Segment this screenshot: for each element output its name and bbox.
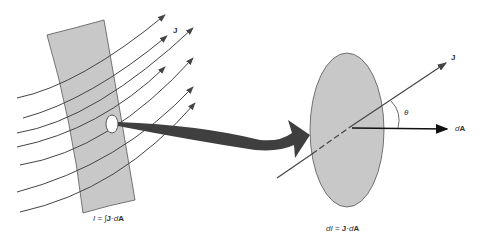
area-element-hole [106, 115, 118, 133]
right-equation: dI = J·dA [326, 224, 359, 233]
theta-label: θ [404, 108, 408, 117]
right-J-label: J [451, 53, 455, 62]
diagram-canvas [0, 0, 483, 244]
left-J-label: J [173, 26, 177, 35]
magnify-arrow [118, 120, 310, 158]
area-vector-dA [352, 128, 447, 129]
curved-surface [47, 20, 135, 213]
dA-label: dA [455, 124, 465, 133]
left-equation: I = ∫J·dA [93, 214, 124, 223]
flat-area-element [310, 53, 384, 207]
angle-arc [391, 101, 399, 128]
